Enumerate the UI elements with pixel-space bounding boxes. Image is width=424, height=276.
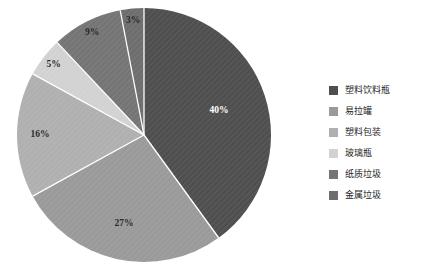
legend-item-label: 塑料包装 [345, 128, 381, 137]
legend-item-label: 易拉罐 [345, 107, 372, 116]
pie-slice-value-label: 3% [126, 16, 140, 26]
legend-item[interactable]: 塑料包装 [329, 122, 421, 143]
legend-color-swatch [329, 107, 338, 116]
pie-slice-value-label: 16% [30, 130, 49, 140]
legend-item-label: 金属垃圾 [345, 191, 381, 200]
legend-item-label: 玻璃瓶 [345, 149, 372, 158]
legend-color-swatch [329, 86, 338, 95]
pie-chart: 40%27%16%5%9%3% 塑料饮料瓶易拉罐塑料包装玻璃瓶纸质垃圾金属垃圾 [0, 0, 424, 276]
legend-item-label: 纸质垃圾 [345, 170, 381, 179]
legend: 塑料饮料瓶易拉罐塑料包装玻璃瓶纸质垃圾金属垃圾 [329, 80, 421, 206]
legend-item[interactable]: 易拉罐 [329, 101, 421, 122]
legend-color-swatch [329, 128, 338, 137]
legend-item[interactable]: 塑料饮料瓶 [329, 80, 421, 101]
pie-slice-value-label: 40% [209, 106, 228, 116]
legend-color-swatch [329, 191, 338, 200]
legend-color-swatch [329, 170, 338, 179]
legend-item[interactable]: 纸质垃圾 [329, 164, 421, 185]
pie-plot-area: 40%27%16%5%9%3% [0, 0, 290, 276]
legend-item-label: 塑料饮料瓶 [345, 86, 390, 95]
pie-slice-value-label: 5% [47, 60, 61, 70]
legend-item[interactable]: 玻璃瓶 [329, 143, 421, 164]
pie-slice-value-label: 27% [115, 219, 134, 229]
pie-slice-value-label: 9% [85, 28, 99, 38]
legend-color-swatch [329, 149, 338, 158]
legend-item[interactable]: 金属垃圾 [329, 185, 421, 206]
